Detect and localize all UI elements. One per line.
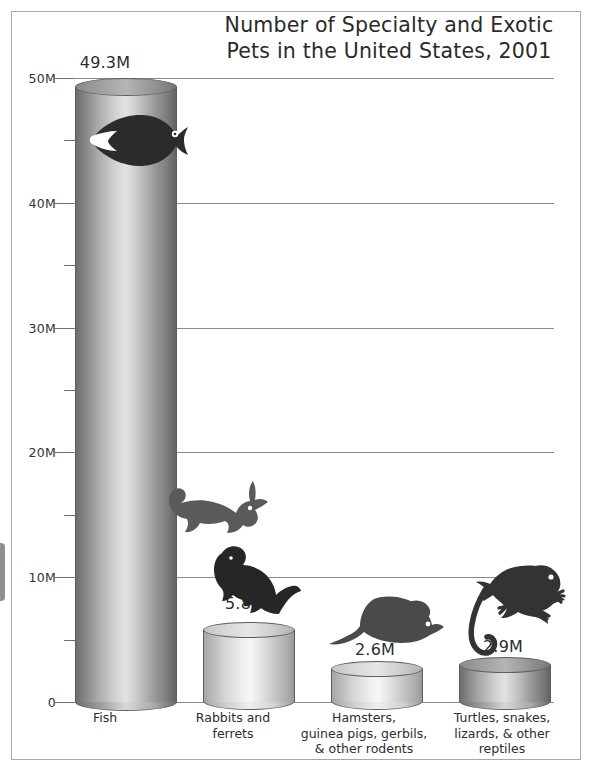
chart-container: Number of Specialty and Exotic Pets in t… <box>0 0 593 775</box>
bar-rabbits-ferrets-top-ellipse <box>203 622 295 638</box>
bar-rabbits-ferrets-body <box>203 630 295 702</box>
mouse-icon <box>327 592 449 648</box>
x-label-fish-line1: Fish <box>45 710 165 726</box>
y-tick-label-40m: 40M <box>28 195 56 210</box>
chart-title-line2: Pets in the United States, 2001 <box>196 38 582 64</box>
scan-edge-artifact <box>0 543 5 601</box>
y-tick-10m <box>54 577 74 578</box>
y-tick-30m <box>54 328 74 329</box>
y-tick-label-20m: 20M <box>28 445 56 460</box>
x-label-reptiles-line3: reptiles <box>437 741 567 757</box>
x-label-rodents-line1: Hamsters, <box>294 710 434 726</box>
x-label-reptiles-line2: lizards, & other <box>437 726 567 742</box>
x-label-rabbits-ferrets-line2: ferrets <box>172 726 294 742</box>
value-label-fish: 49.3M <box>60 53 150 72</box>
bar-rodents-top-ellipse <box>331 661 423 677</box>
y-axis-labels: 50M 40M 30M 20M 10M 0 <box>16 78 56 702</box>
bar-fish[interactable] <box>75 87 177 702</box>
y-tick-50m <box>54 78 74 79</box>
x-label-rabbits-ferrets-line1: Rabbits and <box>172 710 294 726</box>
ferret-icon <box>200 543 304 615</box>
rabbit-icon <box>160 478 272 540</box>
lizard-icon <box>455 558 573 662</box>
y-tick-label-10m: 10M <box>28 570 56 585</box>
x-label-reptiles-line1: Turtles, snakes, <box>437 710 567 726</box>
x-label-rodents-line3: & other rodents <box>294 741 434 757</box>
bar-rodents[interactable] <box>331 669 423 702</box>
y-tick-label-30m: 30M <box>28 320 56 335</box>
y-tick-40m <box>54 203 74 204</box>
fish-icon <box>79 106 189 176</box>
x-label-rodents-line2: guinea pigs, gerbils, <box>294 726 434 742</box>
y-tick-0 <box>54 702 74 703</box>
bar-reptiles[interactable] <box>459 665 551 702</box>
y-tick-20m <box>54 452 74 453</box>
x-label-reptiles: Turtles, snakes, lizards, & other reptil… <box>437 710 567 757</box>
x-label-rabbits-ferrets: Rabbits and ferrets <box>172 710 294 741</box>
bar-fish-body <box>75 87 177 702</box>
chart-title: Number of Specialty and Exotic Pets in t… <box>196 12 582 64</box>
chart-title-line1: Number of Specialty and Exotic <box>225 13 554 37</box>
y-tick-label-50m: 50M <box>28 71 56 86</box>
bar-fish-top-ellipse <box>75 78 177 96</box>
x-label-fish: Fish <box>45 710 165 726</box>
x-label-rodents: Hamsters, guinea pigs, gerbils, & other … <box>294 710 434 757</box>
bar-rabbits-ferrets[interactable] <box>203 630 295 702</box>
